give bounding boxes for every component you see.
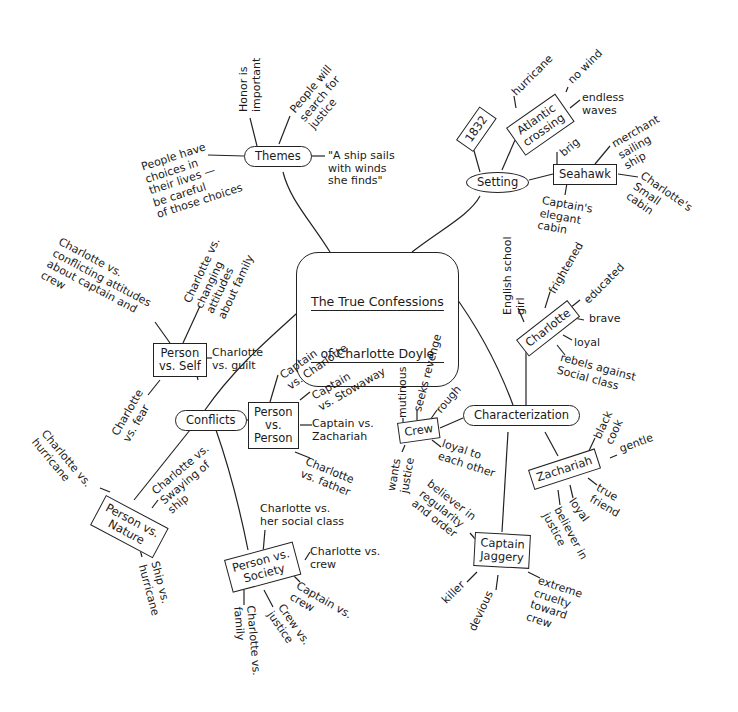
person-captain-vs-zachariah: Captain vs. Zachariah (312, 418, 374, 443)
society-charlotte-vs-family: Charlotte vs. family (231, 605, 262, 677)
conflicts-node: Conflicts (175, 410, 247, 431)
setting-node: Setting (466, 172, 529, 193)
line-center-themes (283, 172, 330, 252)
theme-honor: Honor is important (238, 58, 263, 112)
self-guilt: Charlotte vs. guilt (212, 347, 263, 372)
captain-jaggery-node: Captain Jaggery (473, 532, 531, 569)
charlotte-brave: brave (589, 313, 621, 326)
theme-ship-sails: "A ship sails with winds she finds" (328, 150, 395, 188)
seahawk-node: Seahawk (553, 164, 617, 185)
setting-endless-waves: endless waves (582, 92, 624, 117)
themes-node: Themes (244, 146, 312, 167)
society-charlotte-vs-crew: Charlotte vs. crew (310, 546, 380, 571)
society-social-class: Charlotte vs. her social class (260, 503, 344, 528)
line-center-setting (412, 196, 480, 252)
charlotte-loyal: loyal (574, 337, 600, 350)
crew-mutinous: mutinous (397, 367, 410, 418)
charlotte-english-school-girl: English school girl (502, 237, 527, 315)
person-vs-self-node: Person vs. Self (153, 343, 207, 377)
person-vs-person-node: Person vs. Person (248, 402, 299, 449)
title-line-1: The True Confessions (311, 293, 444, 311)
characterization-node: Characterization (463, 405, 580, 426)
